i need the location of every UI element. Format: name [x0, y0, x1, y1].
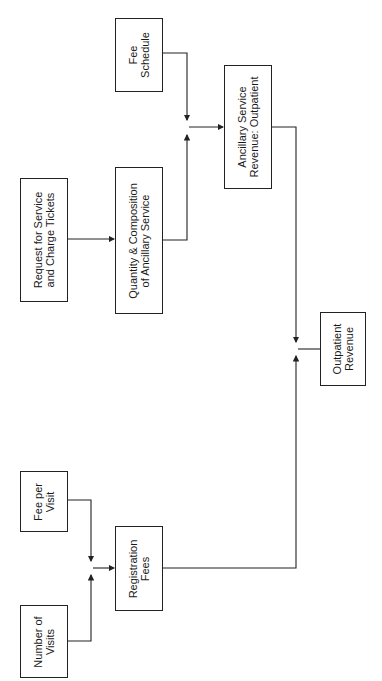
outpatient-revenue-box: Outpatient Revenue [320, 312, 366, 386]
quantity-composition-label: Quantity & Composition of Ancillary Serv… [127, 183, 151, 299]
number-of-visits-box: Number of Visits [20, 605, 68, 678]
ancillary-revenue-label: Ancillary Service Revenue: Outpatient [236, 77, 260, 178]
number-of-visits-label: Number of Visits [32, 616, 56, 667]
fee-schedule-label: Fee Schedule [127, 32, 151, 78]
registration-fees-box: Registration Fees [115, 526, 163, 611]
fee-schedule-box: Fee Schedule [115, 18, 163, 92]
outpatient-revenue-label: Outpatient Revenue [331, 324, 355, 375]
registration-fees-label: Registration Fees [127, 539, 151, 598]
request-service-label: Request for Service and Charge Tickets [32, 192, 56, 289]
fee-per-visit-label: Fee per Visit [32, 483, 56, 521]
quantity-composition-box: Quantity & Composition of Ancillary Serv… [115, 167, 163, 314]
fee-per-visit-box: Fee per Visit [20, 471, 68, 532]
request-service-box: Request for Service and Charge Tickets [20, 178, 68, 302]
ancillary-revenue-box: Ancillary Service Revenue: Outpatient [224, 65, 272, 189]
